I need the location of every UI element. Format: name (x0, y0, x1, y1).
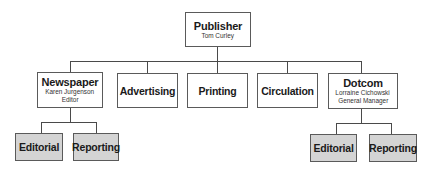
connector-dotcom (361, 61, 362, 73)
node-person-name: Karen Jurgenson (45, 88, 94, 96)
connector-newspaper-down (70, 107, 71, 122)
connector-publisher-down (217, 46, 218, 61)
connector-advertising (147, 61, 148, 73)
node-publisher: Publisher Tom Curley (185, 12, 251, 47)
connector-printing (217, 61, 218, 73)
node-title: Dotcom (343, 77, 383, 89)
connector-dotcom-editorial (336, 123, 337, 134)
connector-circulation (287, 61, 288, 73)
node-person-name: Tom Curley (202, 32, 235, 40)
node-title: Editorial (19, 141, 59, 153)
node-newspaper: Newspaper Karen Jurgenson Editor (37, 72, 103, 108)
node-title: Reporting (72, 141, 120, 153)
node-title: Circulation (261, 85, 314, 97)
connector-newspaper-reporting (96, 122, 97, 133)
node-newspaper-editorial: Editorial (15, 133, 63, 161)
node-title: Publisher (194, 20, 242, 32)
node-title: Advertising (120, 85, 176, 97)
connector-newspaper-editorial (41, 122, 42, 133)
node-dotcom-editorial: Editorial (310, 134, 357, 162)
node-newspaper-reporting: Reporting (73, 133, 119, 161)
node-dotcom-reporting: Reporting (369, 134, 417, 162)
node-title: Newspaper (42, 76, 99, 88)
node-circulation: Circulation (257, 73, 318, 108)
node-person-role: Editor (62, 96, 79, 104)
node-printing: Printing (187, 73, 248, 108)
node-person-role: General Manager (338, 97, 388, 105)
node-person-name: Lorraine Cichowski (336, 89, 390, 97)
node-title: Printing (198, 85, 236, 97)
node-title: Editorial (313, 142, 353, 154)
node-advertising: Advertising (117, 73, 178, 108)
node-title: Reporting (369, 142, 417, 154)
connector-main-horizontal (70, 61, 362, 62)
node-dotcom: Dotcom Lorraine Cichowski General Manage… (328, 73, 398, 109)
connector-newspaper-horizontal (41, 122, 96, 123)
connector-dotcom-reporting (391, 123, 392, 134)
connector-dotcom-down (361, 108, 362, 123)
connector-dotcom-horizontal (336, 123, 391, 124)
